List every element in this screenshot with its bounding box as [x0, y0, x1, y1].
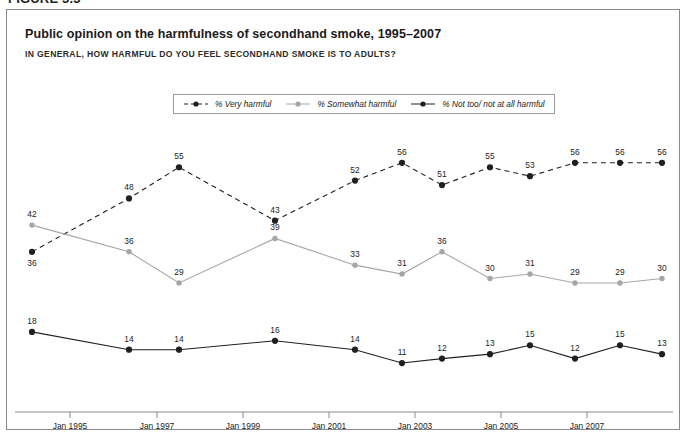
data-point	[527, 173, 533, 179]
data-point-label: 31	[525, 258, 534, 268]
data-point	[126, 195, 132, 201]
data-point-label: 55	[485, 151, 494, 161]
data-point-label: 36	[27, 258, 36, 268]
data-point-label: 43	[270, 205, 279, 215]
figure-number: FIGURE 3.3	[8, 0, 81, 6]
data-point	[399, 271, 404, 276]
data-point-label: 30	[657, 263, 666, 273]
chart-title: Public opinion on the harmfulness of sec…	[25, 27, 441, 41]
data-point	[659, 276, 664, 281]
data-point	[659, 160, 665, 166]
data-point-label: 14	[124, 334, 133, 344]
data-point	[439, 182, 445, 188]
data-point-label: 55	[174, 151, 183, 161]
legend-item-1: % Somewhat harmful	[285, 99, 396, 109]
data-point-label: 51	[437, 169, 446, 179]
data-point-label: 12	[437, 343, 446, 353]
data-point	[572, 356, 578, 362]
data-point-label: 33	[350, 249, 359, 259]
legend-item-label: % Somewhat harmful	[317, 99, 396, 109]
data-point	[527, 271, 532, 276]
data-point-label: 14	[350, 334, 359, 344]
data-point	[399, 360, 405, 366]
data-point	[126, 347, 132, 353]
data-point	[352, 262, 357, 267]
legend-swatch-icon	[410, 99, 436, 109]
data-point	[352, 347, 358, 353]
x-axis-label-2: Jan 1999	[226, 421, 260, 431]
data-point	[126, 249, 131, 254]
data-point-label: 16	[270, 325, 279, 335]
data-point-label: 29	[615, 267, 624, 277]
data-point	[176, 164, 182, 170]
line-chart-plot	[7, 10, 681, 431]
legend-swatch-icon	[285, 99, 311, 109]
chart-panel: Public opinion on the harmfulness of sec…	[6, 9, 680, 430]
chart-legend: % Very harmful% Somewhat harmful% Not to…	[173, 94, 555, 114]
x-axis-label-6: Jan 2007	[570, 421, 604, 431]
x-axis-label-4: Jan 2003	[398, 421, 432, 431]
data-point-label: 11	[398, 347, 407, 357]
data-point	[352, 178, 358, 184]
data-point	[399, 160, 405, 166]
data-point	[487, 351, 493, 357]
data-point-label: 15	[615, 329, 624, 339]
data-point	[487, 276, 492, 281]
data-point-label: 56	[615, 147, 624, 157]
series-line-1	[32, 225, 662, 283]
data-point-label: 12	[570, 343, 579, 353]
data-point	[572, 280, 577, 285]
data-point-label: 56	[657, 147, 666, 157]
x-axis-label-5: Jan 2005	[484, 421, 518, 431]
data-point-label: 13	[485, 338, 494, 348]
data-point	[176, 280, 181, 285]
x-axis-label-1: Jan 1997	[140, 421, 174, 431]
data-point-label: 36	[437, 236, 446, 246]
data-point-label: 53	[525, 160, 534, 170]
data-point	[617, 280, 622, 285]
data-point-label: 48	[124, 182, 133, 192]
chart-subtitle: IN GENERAL, HOW HARMFUL DO YOU FEEL SECO…	[25, 49, 396, 59]
data-point	[272, 236, 277, 241]
legend-swatch-icon	[183, 99, 209, 109]
data-point-label: 56	[397, 147, 406, 157]
data-point	[617, 160, 623, 166]
data-point-label: 15	[525, 329, 534, 339]
data-point	[439, 249, 444, 254]
data-point-label: 52	[350, 165, 359, 175]
data-point	[29, 222, 34, 227]
legend-item-label: % Very harmful	[215, 99, 271, 109]
legend-item-label: % Not too/ not at all harmful	[442, 99, 544, 109]
data-point	[439, 356, 445, 362]
data-point-label: 30	[485, 263, 494, 273]
data-point	[176, 347, 182, 353]
data-point-label: 18	[27, 316, 36, 326]
data-point-label: 31	[397, 258, 406, 268]
data-point-label: 14	[174, 334, 183, 344]
data-point-label: 36	[124, 236, 133, 246]
x-axis-label-0: Jan 1995	[53, 421, 87, 431]
data-point	[617, 342, 623, 348]
data-point-label: 29	[570, 267, 579, 277]
data-point	[572, 160, 578, 166]
data-point	[29, 329, 35, 335]
data-point-label: 29	[174, 267, 183, 277]
data-point	[29, 249, 35, 255]
legend-item-2: % Not too/ not at all harmful	[410, 99, 544, 109]
data-point	[272, 338, 278, 344]
data-point	[487, 164, 493, 170]
legend-item-0: % Very harmful	[183, 99, 271, 109]
data-point-label: 42	[27, 209, 36, 219]
figure-container: FIGURE 3.3 Public opinion on the harmful…	[0, 0, 686, 439]
data-point	[527, 342, 533, 348]
data-point-label: 56	[570, 147, 579, 157]
data-point-label: 39	[270, 222, 279, 232]
data-point	[659, 351, 665, 357]
data-point-label: 13	[657, 338, 666, 348]
x-axis-label-3: Jan 2001	[312, 421, 346, 431]
